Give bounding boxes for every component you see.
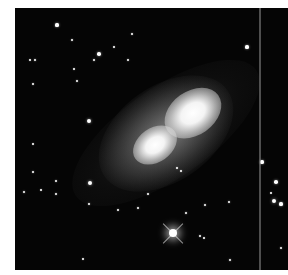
bright-spiked-star <box>15 8 288 270</box>
nebula-image <box>15 8 288 270</box>
